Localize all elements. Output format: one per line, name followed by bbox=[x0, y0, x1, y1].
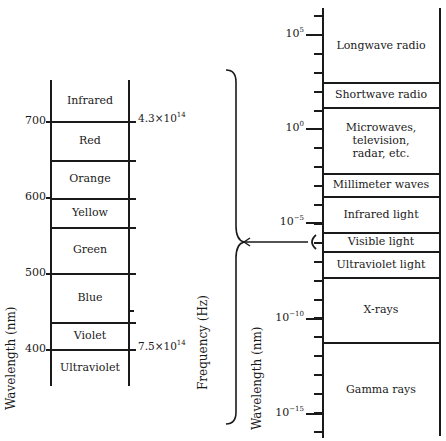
band-label: Visible light bbox=[324, 235, 438, 248]
band-divider bbox=[322, 342, 440, 344]
frequency-tick bbox=[128, 121, 135, 123]
frequency-label: 7.5×1014 bbox=[138, 339, 186, 352]
band-label: Blue bbox=[52, 291, 128, 304]
band-divider bbox=[322, 232, 440, 234]
minor-tick bbox=[314, 204, 323, 206]
minor-tick bbox=[314, 336, 323, 338]
band-label: Ultraviolet light bbox=[324, 258, 438, 271]
band-label: Violet bbox=[52, 329, 128, 342]
band-label: Orange bbox=[52, 172, 128, 185]
band-label: X-rays bbox=[324, 303, 438, 316]
minor-tick bbox=[314, 299, 323, 301]
arrow-left-icon bbox=[238, 232, 318, 252]
major-tick bbox=[306, 34, 323, 36]
frequency-axis-label: Frequency (Hz) bbox=[196, 295, 210, 390]
band-label: Green bbox=[52, 243, 128, 256]
band-divider bbox=[322, 173, 440, 175]
band-divider bbox=[50, 273, 136, 275]
tick-mark bbox=[46, 349, 52, 351]
major-tick bbox=[306, 128, 323, 130]
minor-tick bbox=[314, 110, 323, 112]
band-label: Microwaves, television, radar, etc. bbox=[324, 121, 438, 160]
band-label: Red bbox=[52, 134, 128, 147]
band-divider bbox=[50, 198, 136, 200]
tick-mark bbox=[46, 197, 52, 199]
minor-tick bbox=[314, 374, 323, 376]
band-divider bbox=[322, 277, 440, 279]
band-label: Ultraviolet bbox=[52, 361, 128, 374]
tick-label: 400 bbox=[14, 342, 46, 355]
major-tick bbox=[306, 318, 323, 320]
left-wavelength-axis-label: Wavelength (nm) bbox=[4, 306, 18, 410]
minor-tick bbox=[314, 280, 323, 282]
minor-tick bbox=[314, 431, 323, 433]
tick-label: 10−10 bbox=[250, 310, 304, 324]
band-label: Yellow bbox=[52, 206, 128, 219]
minor-tick bbox=[314, 91, 323, 93]
band-divider bbox=[50, 227, 136, 229]
blue-small-tick bbox=[128, 310, 134, 312]
right-scale-right-rail bbox=[439, 8, 441, 436]
band-divider bbox=[322, 107, 440, 109]
band-divider bbox=[50, 160, 136, 162]
frequency-label: 4.3×1014 bbox=[138, 111, 186, 124]
minor-tick bbox=[314, 166, 323, 168]
band-divider bbox=[322, 196, 440, 198]
band-divider bbox=[50, 121, 136, 123]
right-wavelength-axis-label: Wavelength (nm) bbox=[250, 326, 264, 430]
band-label: Millimeter waves bbox=[324, 178, 438, 191]
tick-label: 10−5 bbox=[250, 214, 304, 228]
minor-tick bbox=[314, 15, 323, 17]
band-divider bbox=[322, 82, 440, 84]
band-divider bbox=[50, 322, 136, 324]
major-tick bbox=[306, 413, 323, 415]
band-label: Longwave radio bbox=[324, 39, 438, 52]
frequency-tick bbox=[128, 349, 135, 351]
band-label: Shortwave radio bbox=[324, 88, 438, 101]
band-label: Infrared light bbox=[324, 208, 438, 221]
tick-label: 100 bbox=[250, 120, 304, 134]
band-divider bbox=[322, 251, 440, 253]
tick-mark bbox=[46, 121, 52, 123]
minor-tick bbox=[314, 72, 323, 74]
minor-tick bbox=[314, 393, 323, 395]
tick-label: 700 bbox=[14, 114, 46, 127]
band-divider bbox=[50, 349, 136, 351]
tick-label: 600 bbox=[14, 190, 46, 203]
major-tick bbox=[306, 222, 323, 224]
tick-label: 105 bbox=[250, 26, 304, 40]
minor-tick bbox=[314, 261, 323, 263]
minor-tick bbox=[314, 53, 323, 55]
tick-mark bbox=[46, 273, 52, 275]
minor-tick bbox=[314, 355, 323, 357]
tick-label: 500 bbox=[14, 266, 46, 279]
minor-tick bbox=[314, 242, 323, 244]
minor-tick bbox=[314, 185, 323, 187]
band-label: Infrared bbox=[52, 94, 128, 107]
band-label: Gamma rays bbox=[324, 383, 438, 396]
left-scale-right-rail bbox=[128, 80, 130, 386]
minor-tick bbox=[314, 147, 323, 149]
